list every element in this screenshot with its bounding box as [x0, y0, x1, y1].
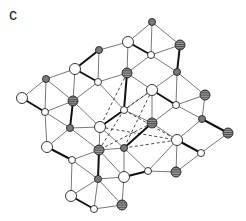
large-white-atom	[17, 93, 28, 104]
bond	[70, 128, 99, 150]
bond	[94, 179, 98, 209]
lattice-diagram	[0, 0, 246, 221]
striped-atom	[147, 118, 157, 128]
bond	[148, 140, 177, 171]
small-white-atom	[173, 102, 180, 109]
large-white-atom	[147, 85, 158, 96]
striped-atom	[171, 167, 181, 177]
bold-bonds	[22, 42, 228, 209]
small-gray-atom	[174, 69, 181, 76]
striped-atom	[200, 90, 210, 100]
bond	[176, 105, 202, 119]
bond	[124, 148, 148, 171]
small-gray-atom	[149, 19, 156, 26]
striped-atom	[223, 128, 233, 138]
small-white-atom	[95, 79, 102, 86]
small-gray-atom	[121, 145, 128, 152]
dashed-bond	[100, 127, 177, 140]
small-white-atom	[121, 107, 128, 114]
small-white-atom	[198, 150, 205, 157]
large-white-atom	[66, 191, 77, 202]
small-gray-atom	[96, 47, 103, 54]
bond	[45, 79, 46, 112]
striped-atom	[94, 145, 104, 155]
dashed-bonds	[99, 73, 177, 150]
small-white-atom	[148, 52, 155, 59]
large-white-atom	[70, 64, 81, 75]
large-white-atom	[172, 135, 183, 146]
striped-atom	[175, 40, 185, 50]
large-white-atom	[123, 37, 134, 48]
bond	[151, 22, 152, 55]
small-white-atom	[69, 157, 76, 164]
small-white-atom	[91, 206, 98, 213]
large-white-atom	[95, 122, 106, 133]
dashed-bond	[124, 90, 152, 148]
small-gray-atom	[67, 125, 74, 132]
small-gray-atom	[199, 116, 206, 123]
bond	[151, 55, 177, 72]
striped-atom	[122, 68, 132, 78]
small-white-atom	[42, 109, 49, 116]
bond	[45, 112, 70, 128]
bond	[98, 82, 124, 110]
striped-atom	[117, 200, 127, 210]
large-white-atom	[42, 142, 53, 153]
small-gray-atom	[95, 176, 102, 183]
striped-atom	[68, 96, 78, 106]
dashed-bond	[100, 73, 127, 127]
small-white-atom	[145, 168, 152, 175]
bond	[98, 50, 99, 82]
large-white-atom	[119, 172, 130, 183]
bond	[72, 160, 98, 179]
bond	[176, 72, 177, 105]
small-gray-atom	[43, 76, 50, 83]
atoms	[17, 19, 234, 213]
